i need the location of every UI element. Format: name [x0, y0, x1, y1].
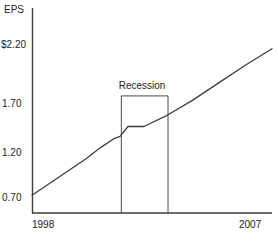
recession-band-label: Recession [119, 80, 166, 91]
y-axis-tick-label-0.70: 0.70 [2, 192, 21, 203]
chart-plot-area [0, 0, 278, 244]
y-axis-tick-label-1.20: 1.20 [2, 147, 21, 158]
x-axis-tick-label-1998: 1998 [32, 219, 54, 230]
x-axis-tick-label-2007: 2007 [239, 219, 261, 230]
y-axis-tick-label-2.20: $2.20 [1, 39, 26, 50]
chart-background [0, 0, 278, 244]
y-axis-tick-label-1.70: 1.70 [2, 98, 21, 109]
eps-line-chart: EPS $2.20 1.70 1.20 0.70 1998 2007 Reces… [0, 0, 278, 244]
y-axis-title: EPS [4, 4, 24, 15]
